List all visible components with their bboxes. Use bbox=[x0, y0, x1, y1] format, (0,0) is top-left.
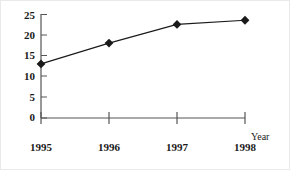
data-markers bbox=[37, 16, 250, 68]
x-tick-label-1998: 1998 bbox=[222, 141, 268, 153]
y-tick-label-20: 20 bbox=[13, 30, 35, 41]
data-line-series-1 bbox=[41, 20, 245, 64]
y-tick-label-10: 10 bbox=[13, 71, 35, 82]
y-tick-label-15: 15 bbox=[13, 50, 35, 61]
x-axis-title: Year bbox=[251, 131, 269, 142]
data-point-1998 bbox=[241, 16, 250, 25]
x-tick-label-1995: 1995 bbox=[18, 141, 64, 153]
y-tick-label-5: 5 bbox=[13, 92, 35, 103]
data-point-1995 bbox=[37, 60, 46, 69]
x-tick-label-1997: 1997 bbox=[154, 141, 200, 153]
data-point-1996 bbox=[105, 39, 114, 48]
y-tick-label-0: 0 bbox=[13, 112, 35, 123]
y-tick-label-25: 25 bbox=[13, 10, 35, 21]
x-tick-label-1996: 1996 bbox=[86, 141, 132, 153]
chart-figure: 25 20 15 10 5 0 1995 1996 1997 1998 Year bbox=[0, 0, 290, 170]
data-point-1997 bbox=[173, 20, 182, 29]
